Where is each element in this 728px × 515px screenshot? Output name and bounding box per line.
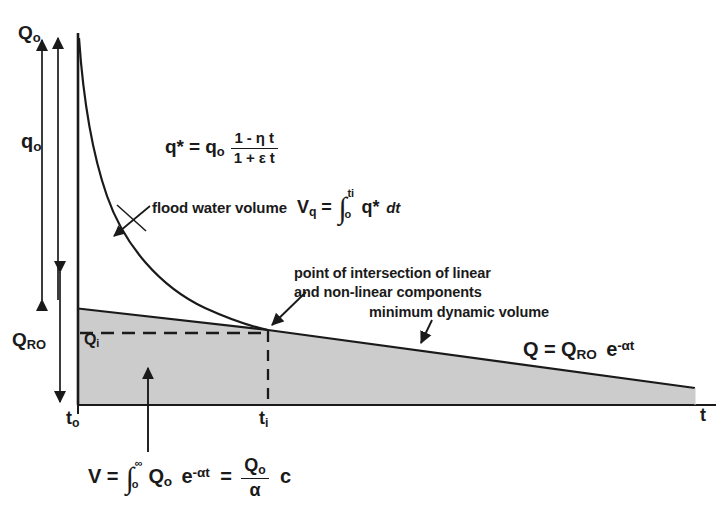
- y-axis-label-subscript: o: [33, 30, 41, 45]
- qi-label-text: Q: [84, 331, 96, 348]
- qro-magnitude-label: QRO: [12, 329, 46, 352]
- equation-coefficient-subscript: o: [217, 144, 225, 159]
- total-volume-numerator-text: Q: [244, 455, 258, 475]
- qo-magnitude-label: qo: [21, 130, 41, 154]
- qi-label-subscript: i: [96, 337, 99, 349]
- flood-volume-equals: =: [321, 197, 331, 217]
- x-axis-label-text: t: [700, 405, 706, 425]
- integral-lower-limit: o: [132, 481, 139, 489]
- total-volume-denominator: α: [241, 479, 268, 500]
- to-label-subscript: o: [72, 416, 79, 430]
- total-volume-lhs: V: [88, 465, 101, 487]
- total-volume-fraction: Qo α: [241, 455, 268, 501]
- total-volume-numerator: Qo: [241, 455, 268, 479]
- equation-fraction: 1 - η t 1 + ε t: [231, 130, 278, 167]
- integral-sign-icon: ∫∞o: [126, 467, 134, 488]
- flood-volume-annotation: flood water volume Vq = ∫tio q* dt: [152, 196, 400, 220]
- total-volume-trailing: c: [280, 465, 291, 487]
- qro-label-subscript: RO: [27, 337, 46, 352]
- linear-equation-exp-power: -αt: [617, 338, 634, 353]
- y-axis-label: Qo: [18, 22, 41, 45]
- linear-equation-equals: =: [544, 338, 556, 360]
- ti-axis-label: ti: [259, 408, 268, 430]
- ti-label-subscript: i: [265, 416, 268, 430]
- total-volume-equals-1: =: [107, 465, 119, 487]
- integral-upper-limit: ∞: [135, 460, 143, 468]
- qo-label-subscript: o: [33, 139, 41, 154]
- minimum-dynamic-volume-leader-line: [421, 320, 432, 343]
- qro-label-text: Q: [12, 329, 27, 350]
- equation-equals: =: [189, 136, 200, 157]
- hydrograph-diagram: Qo qo QRO Qi to ti t q* = qo 1 - η t 1 +…: [0, 0, 728, 515]
- total-volume-equation: V = ∫∞o Qo e-αt = Qo α c: [88, 455, 291, 501]
- minimum-dynamic-volume-annotation: minimum dynamic volume: [369, 303, 549, 322]
- nonlinear-recession-equation: q* = qo 1 - η t 1 + ε t: [165, 130, 279, 167]
- flood-volume-integrand: q*: [362, 197, 380, 217]
- total-volume-equals-2: =: [220, 465, 232, 487]
- linear-equation-rhs-subscript: RO: [576, 347, 596, 362]
- flood-volume-differential: dt: [386, 199, 400, 216]
- intersection-annotation-line1: point of intersection of linear: [294, 264, 491, 283]
- flood-volume-text: flood water volume: [152, 199, 287, 216]
- total-volume-exp-power: -αt: [193, 465, 210, 480]
- linear-equation-lhs: Q: [523, 338, 538, 360]
- flood-volume-lhs-subscript: q: [309, 205, 316, 219]
- equation-coefficient: q: [205, 136, 217, 157]
- intersection-annotation-line2: and non-linear components: [294, 283, 491, 302]
- total-volume-numerator-subscript: o: [258, 463, 265, 477]
- to-axis-label: to: [66, 408, 79, 430]
- flood-volume-leader-line: [114, 206, 150, 236]
- diagram-canvas: [0, 0, 728, 515]
- flood-volume-equation: Vq = ∫tio q* dt: [297, 197, 400, 217]
- minimum-dynamic-volume-text: minimum dynamic volume: [369, 304, 549, 320]
- equation-denominator: 1 + ε t: [231, 149, 278, 167]
- equation-lhs: q*: [165, 136, 184, 157]
- integral-lower-limit: o: [344, 211, 351, 219]
- linear-recession-equation: Q = QRO e-αt: [523, 338, 634, 362]
- total-volume-integrand: Q: [148, 465, 163, 487]
- y-axis-label-text: Q: [18, 22, 33, 43]
- linear-equation-rhs: Q: [561, 338, 576, 360]
- total-volume-integrand-subscript: o: [164, 474, 172, 489]
- intersection-annotation: point of intersection of linear and non-…: [294, 264, 491, 301]
- x-axis-label: t: [700, 405, 706, 426]
- qi-level-label: Qi: [84, 331, 99, 349]
- integral-upper-limit: ti: [347, 190, 354, 198]
- qo-label-text: q: [21, 130, 33, 152]
- equation-numerator: 1 - η t: [231, 130, 278, 149]
- nonlinear-recession-curve: [79, 38, 268, 330]
- total-volume-exp-base: e: [182, 465, 193, 487]
- flood-volume-lhs: V: [297, 197, 309, 217]
- integral-sign-icon: ∫tio: [338, 197, 346, 218]
- linear-equation-exp-base: e: [606, 338, 617, 360]
